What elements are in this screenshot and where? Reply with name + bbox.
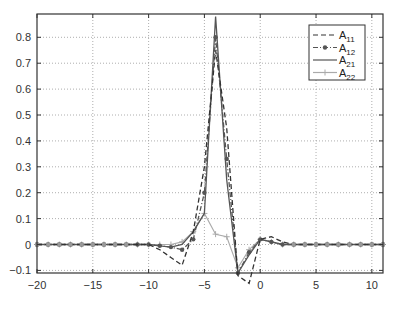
square-marker [80,243,84,247]
square-marker [325,243,329,247]
x-tick-label: −10 [139,279,158,291]
square-marker [359,243,363,247]
square-marker [348,243,352,247]
dot-marker [202,191,206,195]
square-marker [113,243,117,247]
dot-marker [280,242,284,246]
square-marker [292,243,296,247]
dot-marker [213,35,217,39]
square-marker [370,243,374,247]
y-tick-label: −0.1 [9,264,31,276]
square-marker [57,243,61,247]
line-chart: −20−15−10−50510−0.100.10.20.30.40.50.60.… [0,0,396,315]
dot-marker [269,240,273,244]
dot-marker [169,245,173,249]
x-tick-label: 5 [313,279,319,291]
square-marker [46,243,50,247]
x-tick-label: 0 [257,279,263,291]
y-tick-label: 0.4 [16,135,31,147]
dot-marker [180,247,184,251]
x-tick-label: 10 [366,279,378,291]
y-tick-label: 0.7 [16,57,31,69]
x-tick-label: −15 [83,279,102,291]
legend-box [309,25,365,80]
dot-marker [225,157,229,161]
y-tick-label: 0.8 [16,31,31,43]
square-marker [91,243,95,247]
x-tick-label: −20 [28,279,47,291]
y-tick-label: 0.1 [16,213,31,225]
square-marker [68,243,72,247]
dot-marker [323,45,327,49]
y-tick-label: 0 [25,239,31,251]
legend: A11A12A21A22 [309,25,365,82]
square-marker [314,243,318,247]
y-tick-label: 0.5 [16,109,31,121]
y-tick-label: 0.3 [16,161,31,173]
y-tick-label: 0.2 [16,187,31,199]
y-tick-label: 0.6 [16,83,31,95]
dot-marker [158,244,162,248]
square-marker [102,243,106,247]
square-marker [303,243,307,247]
square-marker [124,243,128,247]
x-tick-label: −5 [198,279,211,291]
dot-marker [247,250,251,254]
square-marker [336,243,340,247]
